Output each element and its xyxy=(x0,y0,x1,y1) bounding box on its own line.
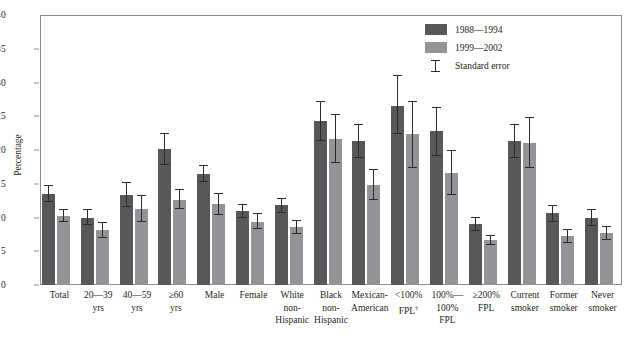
error-bar xyxy=(44,185,53,202)
error-bar xyxy=(602,226,611,240)
bar-group xyxy=(389,15,428,285)
bar-group xyxy=(273,15,312,285)
bar xyxy=(212,204,225,285)
error-bar xyxy=(83,209,92,225)
error-bar xyxy=(277,198,286,213)
legend-item: 1999—2002 xyxy=(425,40,605,55)
bar xyxy=(290,227,303,285)
y-axis-tick-label: 5 xyxy=(1,246,6,256)
y-axis-tick-mark xyxy=(34,116,39,117)
bar xyxy=(484,240,497,285)
error-bar xyxy=(253,213,262,229)
bar xyxy=(561,236,574,285)
bar xyxy=(120,195,133,285)
bar xyxy=(600,233,613,285)
error-bar xyxy=(369,169,378,200)
error-bar xyxy=(316,101,325,141)
bar-group xyxy=(312,15,351,285)
error-bar xyxy=(98,222,107,239)
y-axis-tick-label: 25 xyxy=(0,111,6,121)
legend-item: Standard error xyxy=(425,58,605,73)
bar-group xyxy=(234,15,273,285)
error-bar xyxy=(331,114,340,163)
bar xyxy=(546,213,559,285)
bar xyxy=(236,211,249,285)
error-bar xyxy=(563,229,572,243)
y-axis-tick-mark xyxy=(34,251,39,252)
y-axis-tick-label: 20 xyxy=(0,145,6,155)
bar xyxy=(314,121,327,285)
bar xyxy=(81,218,94,286)
x-axis-label: Neversmoker xyxy=(577,289,628,314)
legend-errorbar-icon xyxy=(425,59,447,72)
error-bar xyxy=(432,107,441,156)
y-axis-tick-label: 10 xyxy=(0,213,6,223)
error-bar xyxy=(354,124,363,158)
error-bar xyxy=(238,204,247,218)
error-bar xyxy=(137,195,146,221)
bar-group xyxy=(195,15,234,285)
bar-group xyxy=(156,15,195,285)
legend-item: 1988—1994 xyxy=(425,22,605,37)
bar-group xyxy=(118,15,157,285)
error-bar xyxy=(199,165,208,183)
error-bar xyxy=(447,150,456,195)
chart-container: Percentage 0510152025303540 Total20—39yr… xyxy=(0,0,628,346)
chart-legend: 1988—19941999—2002Standard error xyxy=(425,22,605,76)
error-bar xyxy=(486,235,495,245)
bar-group xyxy=(350,15,389,285)
y-axis-tick-label: 40 xyxy=(0,10,6,20)
error-bar xyxy=(525,117,534,168)
bar xyxy=(275,205,288,285)
bar xyxy=(469,224,482,285)
bar xyxy=(57,216,70,285)
error-bar xyxy=(160,133,169,165)
bar-group xyxy=(79,15,118,285)
legend-label: 1988—1994 xyxy=(455,25,503,35)
error-bar xyxy=(393,75,402,134)
bar xyxy=(173,200,186,285)
error-bar xyxy=(292,220,301,234)
error-bar xyxy=(471,217,480,231)
y-axis-tick-mark xyxy=(34,217,39,218)
bar xyxy=(352,141,365,285)
y-axis-tick-label: 35 xyxy=(0,44,6,54)
bar-group xyxy=(40,15,79,285)
error-bar xyxy=(408,101,417,167)
bar xyxy=(197,174,210,285)
bar xyxy=(158,149,171,285)
y-axis-tick-label: 0 xyxy=(1,280,6,290)
error-bar xyxy=(214,193,223,215)
error-bar xyxy=(122,182,131,207)
x-axis-labels: Total20—39yrs40—59yrs≥60yrsMaleFemaleWhi… xyxy=(40,289,622,346)
y-axis-tick-label: 15 xyxy=(0,179,6,189)
y-axis-tick-mark xyxy=(34,150,39,151)
error-bar xyxy=(510,124,519,158)
y-axis-tick-mark xyxy=(34,183,39,184)
y-axis-tick-mark xyxy=(34,48,39,49)
bar xyxy=(42,194,55,285)
error-bar xyxy=(175,189,184,209)
legend-color-swatch xyxy=(425,42,447,53)
legend-label: 1999—2002 xyxy=(455,43,503,53)
bar xyxy=(367,185,380,285)
bar xyxy=(96,230,109,285)
error-bar xyxy=(59,209,68,222)
y-axis-title: Percentage xyxy=(13,110,23,200)
bar xyxy=(508,141,521,285)
bar xyxy=(585,218,598,286)
error-bar xyxy=(587,209,596,225)
legend-color-swatch xyxy=(425,24,447,35)
error-bar xyxy=(548,205,557,221)
y-axis-tick-mark xyxy=(34,82,39,83)
y-axis-tick-mark xyxy=(34,285,39,286)
legend-label: Standard error xyxy=(455,61,510,71)
bar xyxy=(251,222,264,285)
y-axis-tick-label: 30 xyxy=(0,78,6,88)
